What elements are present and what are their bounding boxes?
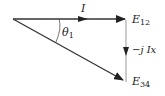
current-label: I — [80, 2, 86, 15]
angle-arc — [56, 19, 60, 42]
e34-label: E34 — [131, 75, 150, 89]
e12-label: E12 — [131, 13, 150, 27]
drop-mid-arrow — [123, 47, 129, 56]
drop-label: −j Ix — [132, 44, 157, 55]
angle-label: θ1 — [62, 26, 74, 40]
current-mid-arrow — [78, 16, 88, 22]
phasor-diagram: I θ1 E12 −j Ix E34 — [0, 0, 165, 96]
